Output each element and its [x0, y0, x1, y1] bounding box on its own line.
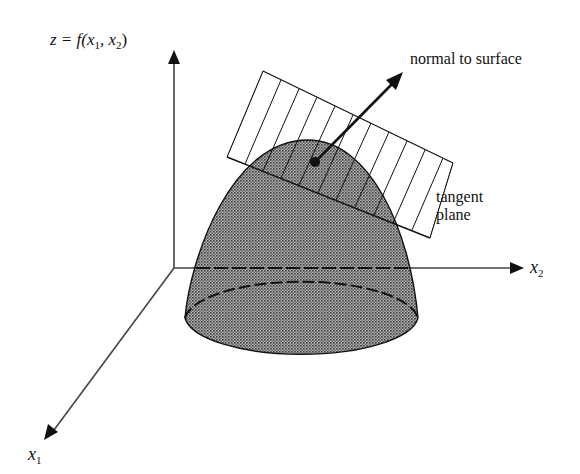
- normal-label: normal to surface: [410, 50, 522, 67]
- z-axis-label: z = f(x1, x2): [49, 30, 127, 51]
- x1-axis-label: x1: [27, 444, 42, 466]
- z-axis: [168, 50, 180, 268]
- tangent-point: [310, 157, 320, 167]
- surface: [185, 140, 418, 354]
- tangent-label-line2: plane: [436, 206, 471, 224]
- normal-vector: [310, 72, 403, 167]
- z-axis-arrowhead-icon: [168, 50, 180, 64]
- x1-axis: [44, 268, 174, 440]
- x2-axis-arrowhead-icon: [510, 262, 524, 274]
- x2-axis-label: x2: [529, 257, 544, 279]
- diagram-canvas: z = f(x1, x2) x2 x1 normal to surface ta…: [0, 0, 580, 474]
- tangent-label-line1: tangent: [436, 188, 484, 206]
